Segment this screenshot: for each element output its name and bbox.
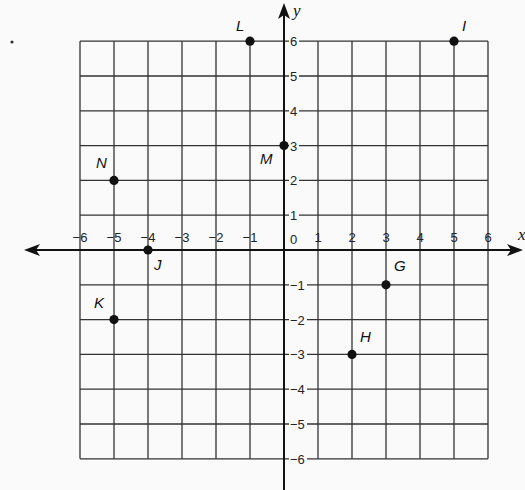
point-i (449, 37, 458, 46)
x-tick-label: −6 (73, 230, 88, 245)
y-axis-label: y (291, 1, 301, 20)
point-label-g: G (394, 257, 406, 274)
y-tick-label: −3 (290, 347, 305, 362)
point-label-h: H (360, 328, 371, 345)
y-tick-label: −5 (290, 417, 305, 432)
x-tick-label: 1 (314, 230, 321, 245)
x-tick-label: 3 (382, 230, 389, 245)
point-k (109, 315, 118, 324)
x-tick-label: 2 (348, 230, 355, 245)
point-label-m: M (260, 150, 273, 167)
coordinate-plane: yx −6−5−4−3−2−11234560−6−5−4−3−2−1123456… (0, 0, 525, 490)
point-h (347, 350, 356, 359)
point-label-j: J (153, 256, 162, 273)
x-tick-label: −2 (209, 230, 224, 245)
x-tick-label: −4 (141, 230, 156, 245)
y-tick-label: −4 (290, 382, 305, 397)
point-l (245, 37, 254, 46)
point-m (279, 141, 288, 150)
y-tick-label: 4 (290, 104, 297, 119)
plotted-points: GHIJKLMN (94, 17, 466, 359)
y-tick-label: 2 (290, 173, 297, 188)
point-label-l: L (236, 17, 244, 34)
point-j (143, 245, 152, 254)
x-tick-label: 4 (416, 230, 423, 245)
y-tick-label: 3 (290, 139, 297, 154)
stray-dot (10, 40, 13, 43)
y-tick-label: 6 (290, 34, 297, 49)
point-n (109, 176, 118, 185)
x-tick-label: 5 (450, 230, 457, 245)
y-tick-label: −1 (290, 278, 305, 293)
y-tick-label: −6 (290, 452, 305, 467)
y-tick-label: 1 (290, 208, 297, 223)
y-tick-label: −2 (290, 313, 305, 328)
x-tick-label: 6 (484, 230, 491, 245)
x-tick-label: −3 (175, 230, 190, 245)
point-label-n: N (96, 154, 107, 171)
point-label-i: I (462, 17, 466, 34)
x-tick-label: −5 (107, 230, 122, 245)
origin-label: 0 (290, 232, 297, 247)
point-g (381, 280, 390, 289)
x-axis-label: x (517, 225, 525, 244)
point-label-k: K (94, 294, 105, 311)
y-tick-label: 5 (290, 69, 297, 84)
x-tick-label: −1 (243, 230, 258, 245)
axes: yx (24, 1, 525, 490)
